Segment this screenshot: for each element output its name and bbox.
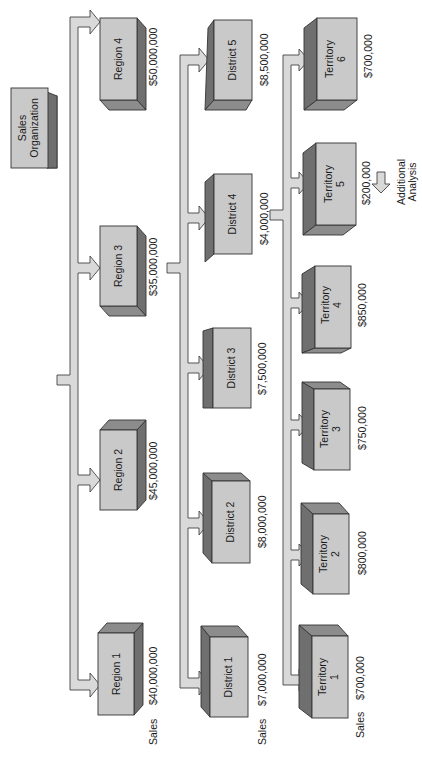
territory-3-sales: $750,000 — [356, 406, 368, 450]
territory-6-box: Territory 6 $700,000 — [304, 18, 374, 110]
district-1-label: District 1 — [222, 656, 234, 697]
district-2-box: District 2 $8,000,000 — [203, 473, 268, 563]
district-1-box: District 1 $7,000,000 Sales — [201, 626, 268, 745]
region-1-box: Region 1 $40,000,000 Sales — [98, 623, 159, 745]
additional-analysis: Additional Analysis — [372, 159, 418, 205]
territory-6-label-line2: 6 — [335, 56, 347, 62]
district-5-sales: $8,500,000 — [258, 33, 270, 86]
territory-1-label-line1: Territory — [316, 657, 328, 696]
territory-2-label-line1: Territory — [317, 534, 329, 573]
district-3-box: District 3 $7,500,000 — [203, 328, 268, 408]
territory-2-box: Territory 2 $800,000 — [301, 503, 368, 594]
territory-5-label-line1: Territory — [322, 164, 334, 203]
additional-analysis-line2: Analysis — [406, 162, 418, 201]
district-5-label: District 5 — [226, 39, 238, 80]
region-4-box: Region 4 $50,000,000 — [100, 18, 159, 110]
region-4-sales: $50,000,000 — [147, 27, 159, 86]
territory-1-sales: $700,000 — [354, 656, 366, 700]
territory-1-label-line2: 1 — [328, 674, 340, 680]
territory-5-label-line2: 5 — [334, 181, 346, 187]
territory-6-sales: $700,000 — [362, 34, 374, 78]
district-4-label: District 4 — [226, 193, 238, 234]
arrow-right-icon — [372, 172, 390, 193]
territory-4-box: Territory 4 $850,000 — [302, 266, 368, 353]
region-3-label: Region 3 — [112, 245, 124, 287]
region-1-sales: $40,000,000 — [147, 646, 159, 705]
territory-4-label-line2: 4 — [331, 302, 343, 308]
connector-level1 — [57, 10, 100, 697]
district-3-sales: $7,500,000 — [256, 342, 268, 395]
district-2-sales: $8,000,000 — [256, 495, 268, 548]
territory-5-box: Territory 5 $200,000 — [303, 143, 372, 235]
territory-3-label-line2: 3 — [330, 426, 342, 432]
root-label-line2: Organization — [28, 98, 40, 158]
territory-2-label-line2: 2 — [329, 551, 341, 557]
region-3-box: Region 3 $35,000,000 — [100, 226, 159, 316]
region-3-sales: $35,000,000 — [147, 237, 159, 296]
territory-3-box: Territory 3 $750,000 — [302, 382, 368, 470]
connector-level3 — [270, 49, 309, 691]
territory-6-label-line1: Territory — [323, 39, 335, 78]
district-3-label: District 3 — [225, 347, 237, 388]
region-4-label: Region 4 — [112, 38, 124, 80]
sales-label-level4: Sales — [354, 712, 366, 738]
root-label-line1: Sales — [16, 115, 28, 141]
region-2-sales: $45,000,000 — [147, 441, 159, 500]
district-4-sales: $4,000,000 — [258, 192, 270, 245]
district-1-sales: $7,000,000 — [256, 653, 268, 706]
region-1-label: Region 1 — [110, 653, 122, 695]
region-2-box: Region 2 $45,000,000 — [100, 420, 159, 510]
territory-4-sales: $850,000 — [356, 283, 368, 327]
territory-4-label-line1: Territory — [319, 285, 331, 324]
region-2-label: Region 2 — [112, 449, 124, 491]
district-4-box: District 4 $4,000,000 — [205, 174, 270, 262]
territory-2-sales: $800,000 — [356, 531, 368, 575]
district-2-label: District 2 — [224, 501, 236, 542]
sales-label-level2: Sales — [147, 719, 159, 745]
territory-5-sales: $200,000 — [360, 161, 372, 205]
district-5-box: District 5 $8,500,000 — [205, 20, 270, 110]
sales-label-level3: Sales — [256, 719, 268, 745]
territory-3-label-line1: Territory — [318, 409, 330, 448]
territory-1-box: Territory 1 $700,000 Sales — [299, 625, 366, 738]
root-box: Sales Organization — [11, 88, 57, 168]
sales-org-diagram: .face{fill:#c9c9c9;stroke:#333;stroke-wi… — [0, 0, 422, 763]
